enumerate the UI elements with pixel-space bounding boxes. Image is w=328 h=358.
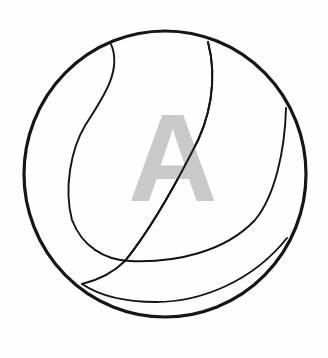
ball-illustration: A <box>0 0 328 358</box>
letter-a: A <box>128 104 216 212</box>
